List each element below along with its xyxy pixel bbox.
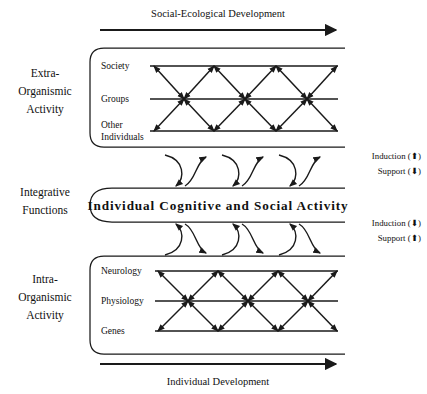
tier-label-integrative-functions: Integrative Functions [20,186,70,216]
tier-label-intra-organismic: Intra- Organismic Activity [18,273,71,322]
row-label-genes: Genes [101,326,125,336]
row-label-society: Society [101,61,130,71]
tier-label-extra-organismic-line-2: Organismic [18,85,71,98]
upper-legend: Induction (⬆) Support (⬇) [372,151,421,176]
lower-legend-induction: Induction (⬇) [372,218,421,228]
tier-label-integrative-functions-line-1: Integrative [20,186,70,199]
tier-label-intra-organismic-line-1: Intra- [32,273,58,285]
row-label-physiology: Physiology [101,296,144,306]
diagram-canvas: Social-Ecological Development Individual… [0,0,427,394]
row-label-other-individuals-line-2: Individuals [101,132,144,142]
tier-label-integrative-functions-line-2: Functions [22,204,68,216]
tier-label-intra-organismic-line-3: Activity [26,309,64,322]
center-band-label: Individual Cognitive and Social Activity [88,198,349,213]
tier-label-extra-organismic: Extra- Organismic Activity [18,67,71,116]
row-label-neurology: Neurology [101,266,142,276]
lower-interaction-curves [165,224,320,255]
top-axis-title: Social-Ecological Development [151,8,285,19]
upper-interaction-curves [165,155,320,186]
tier-label-extra-organismic-line-3: Activity [26,103,64,116]
bioecological-systems-diagram: Social-Ecological Development Individual… [0,0,427,394]
tier-label-extra-organismic-line-1: Extra- [31,67,60,79]
upper-legend-induction: Induction (⬆) [372,151,421,161]
lower-legend-support: Support (⬆) [378,233,421,243]
row-label-groups: Groups [101,94,129,104]
upper-legend-support: Support (⬇) [378,166,421,176]
tier-label-intra-organismic-line-2: Organismic [18,291,71,304]
row-label-other-individuals-line-1: Other [101,120,123,130]
lower-legend: Induction (⬇) Support (⬆) [372,218,421,243]
bottom-axis-title: Individual Development [167,376,269,387]
